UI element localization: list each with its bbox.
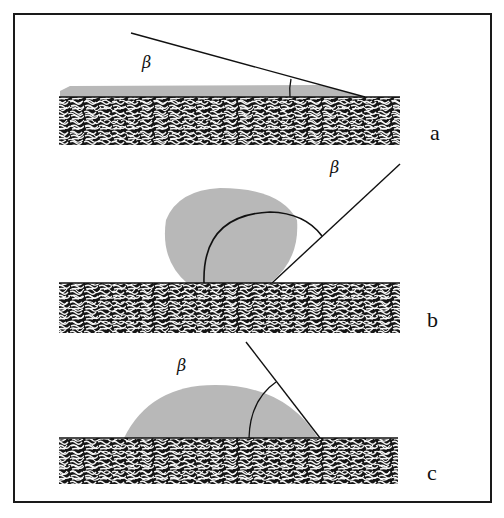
panel-label-c: c [427, 460, 437, 485]
beta-symbol: β [141, 53, 151, 72]
beta-symbol: β [329, 158, 339, 177]
liquid-film [60, 85, 365, 97]
panel-label-a: a [430, 120, 440, 145]
liquid-drop [165, 188, 297, 283]
panel-label-b: b [427, 307, 438, 332]
beta-symbol: β [176, 356, 186, 375]
contact-angle-diagram: β a β b β c [0, 0, 504, 518]
